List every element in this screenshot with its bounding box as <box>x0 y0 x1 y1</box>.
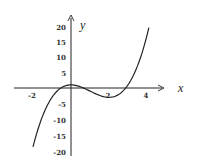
y-tick-labels: 20 15 10 5 -5 -10 -15 -20 <box>53 23 66 157</box>
x-tick-labels: -2 2 4 <box>28 91 148 100</box>
y-tick-label: -5 <box>58 100 66 109</box>
x-axis-label: x <box>177 81 184 95</box>
y-tick-label: 5 <box>61 69 66 78</box>
y-tick-label: -20 <box>53 148 66 157</box>
y-tick-label: -10 <box>53 116 66 125</box>
y-tick-label: 20 <box>56 23 66 32</box>
x-tick-label: 2 <box>106 91 111 100</box>
x-tick-label: -2 <box>28 91 36 100</box>
y-tick-label: 10 <box>56 53 66 62</box>
y-axis-label: y <box>79 18 86 32</box>
cubic-curve <box>33 28 149 147</box>
y-tick-label: -15 <box>53 132 66 141</box>
x-tick-label: 4 <box>144 91 149 100</box>
y-tick-label: 15 <box>56 38 66 47</box>
cubic-function-plot: x y 20 15 10 5 -5 -10 -15 -20 -2 2 4 <box>0 0 197 167</box>
